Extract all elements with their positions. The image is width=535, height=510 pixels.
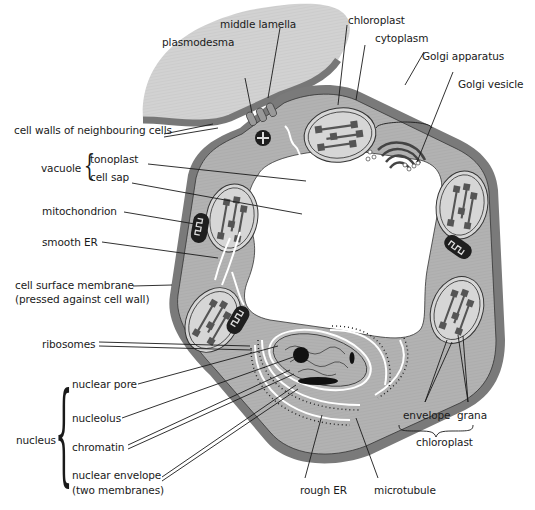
label-cell-surface-membrane-note: (pressed against cell wall)	[15, 293, 149, 305]
label-golgi-apparatus: Golgi apparatus	[422, 50, 504, 62]
label-ribosomes: ribosomes	[42, 338, 95, 350]
label-chloroplast-top: chloroplast	[348, 14, 405, 26]
label-vacuole: vacuole	[41, 162, 81, 174]
plant-cell-diagram	[0, 0, 535, 510]
label-chromatin: chromatin	[72, 441, 124, 453]
label-nuclear-envelope: nuclear envelope	[72, 469, 161, 481]
label-nucleus: nucleus	[16, 434, 56, 446]
label-cell-walls-neighbouring: cell walls of neighbouring cells	[14, 124, 172, 136]
label-smooth-er: smooth ER	[42, 236, 98, 248]
label-nuclear-pore: nuclear pore	[72, 378, 137, 390]
label-chloroplast-bottom: chloroplast	[416, 436, 473, 448]
label-cell-sap: cell sap	[90, 171, 129, 183]
label-golgi-vesicle: Golgi vesicle	[458, 78, 523, 90]
label-plasmodesma: plasmodesma	[162, 36, 234, 48]
nucleus-brace: {	[55, 378, 73, 488]
label-cytoplasm: cytoplasm	[375, 32, 428, 44]
vacuole	[244, 150, 441, 338]
peroxisome	[255, 130, 271, 146]
label-nuclear-envelope-note: (two membranes)	[72, 484, 164, 496]
label-mitochondrion: mitochondrion	[42, 205, 117, 217]
label-grana: grana	[457, 409, 487, 421]
label-envelope: envelope	[403, 409, 450, 421]
label-tonoplast: tonoplast	[90, 153, 138, 165]
label-rough-er: rough ER	[300, 484, 347, 496]
label-cell-surface-membrane: cell surface membrane	[15, 279, 134, 291]
label-middle-lamella: middle lamella	[220, 18, 296, 30]
label-nucleolus: nucleolus	[72, 412, 121, 424]
label-microtubule: microtubule	[374, 484, 436, 496]
